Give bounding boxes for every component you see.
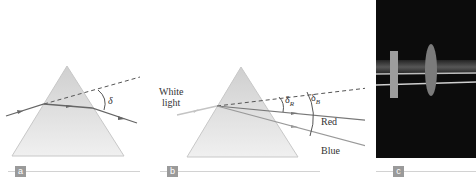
- panel-label-a: a: [15, 166, 26, 177]
- panel-a: δ a: [0, 0, 150, 185]
- panel-c: c: [370, 0, 476, 185]
- prism-diagram-b: [155, 0, 365, 185]
- delta-r-label: δR: [285, 94, 294, 108]
- photo-lens-beams: [376, 0, 476, 158]
- blue-label: Blue: [321, 145, 340, 156]
- delta-label-a: δ: [108, 95, 113, 106]
- prism-diagram-a: δ: [0, 0, 150, 185]
- delta-b-label: δB: [311, 92, 320, 106]
- white-light-label: White light: [159, 86, 183, 108]
- prism-a: [12, 66, 124, 156]
- red-label: Red: [321, 116, 337, 127]
- panel-b: White light δR δB Red Blue b: [155, 0, 365, 185]
- divider-a: [8, 171, 140, 172]
- panel-label-b: b: [167, 166, 178, 177]
- divider-b: [160, 171, 320, 172]
- divider-c: [376, 171, 476, 172]
- panel-label-c: c: [393, 166, 404, 177]
